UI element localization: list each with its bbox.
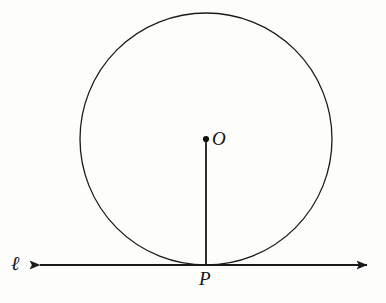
center-point-dot [203, 136, 209, 142]
label-tangent-point-p: P [199, 269, 211, 288]
diagram-canvas [0, 0, 386, 303]
geometry-figure: O P ℓ [0, 0, 386, 303]
label-center-o: O [212, 129, 226, 148]
label-line-ell: ℓ [11, 253, 19, 273]
